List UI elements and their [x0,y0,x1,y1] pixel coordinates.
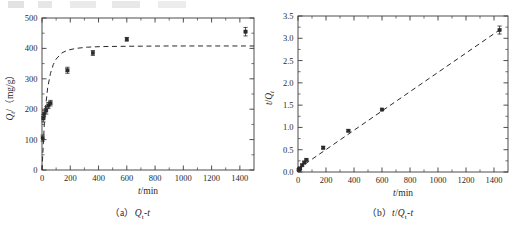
plot-b-canvas: 02004006008001000120014000.00.51.01.52.0… [260,0,520,205]
x-tick-label: 1200 [203,173,220,183]
data-point-marker [66,69,69,72]
y-tick-label: 400 [25,43,38,53]
y-tick-label: 1.5 [283,100,294,110]
y-tick-label: 100 [25,135,38,145]
y-tick-label: 3.0 [283,33,294,43]
y-tick-label: 1.0 [283,122,294,132]
x-tick-label: 0 [296,175,300,185]
fit-curve [42,46,254,170]
x-tick-label: 800 [149,173,162,183]
x-axis-label-var: t [393,188,396,198]
x-tick-label: 0 [40,173,44,183]
data-point-marker [125,38,128,41]
y-tick-label: 0.5 [283,145,294,155]
y-label-units: /（mg/g） [4,70,15,112]
y-tick-label: 2.5 [283,56,294,66]
x-axis-label: t/min [138,186,158,196]
data-point-marker [347,129,350,132]
data-point-marker [322,146,325,149]
y-label-sub-t: t [268,90,276,93]
fit-curve [298,29,501,169]
plot-frame [298,16,508,172]
y-tick-label: 0 [33,165,37,175]
y-tick-label: 300 [25,74,38,84]
x-tick-label: 200 [64,173,77,183]
plot-a-canvas: 0200400600800100012001400010020030040050… [0,0,260,205]
y-tick-label: 200 [25,104,38,114]
x-axis-label: t/min [393,188,413,198]
y-axis-label-b-text: t/Qt [264,90,276,105]
panel-b-caption-prefix: （b） [367,208,392,218]
data-point-marker [305,158,308,161]
data-point-marker [244,30,247,33]
y-tick-label: 500 [25,13,38,23]
x-tick-label: 1000 [430,175,447,185]
x-tick-label: 600 [376,175,389,185]
y-axis-label-a-text: Qt/（mg/g） [4,70,17,121]
x-tick-label: 800 [404,175,417,185]
y-tick-label: 0.0 [283,167,294,177]
data-point-marker [49,101,52,104]
x-tick-label: 1000 [175,173,192,183]
y-axis-label-b: t/Qt [264,90,276,105]
plot-frame [42,18,254,170]
panel-a-caption: （a）Qt-t [0,205,260,221]
figure-adsorption-kinetics: 0200400600800100012001400010020030040050… [0,0,520,235]
x-tick-label: 600 [120,173,133,183]
y-axis-label-a: Qt/（mg/g） [4,70,17,121]
panel-a-caption-prefix: （a） [110,208,135,218]
data-point-marker [91,51,94,54]
panel-b-t-over-qt-vs-t: 02004006008001000120014000.00.51.01.52.0… [260,0,520,235]
x-tick-label: 1200 [458,175,475,185]
x-tick-label: 1400 [231,173,248,183]
y-tick-label: 3.5 [283,11,294,21]
x-tick-label: 1400 [486,175,503,185]
x-tick-label: 200 [320,175,333,185]
panel-a-qt-vs-t: 0200400600800100012001400010020030040050… [0,0,260,235]
x-axis-label-var: t [138,186,141,196]
x-tick-label: 400 [348,175,361,185]
y-tick-label: 2.0 [283,78,294,88]
panel-b-caption: （b）t/Qt-t [260,205,520,221]
x-tick-label: 400 [92,173,105,183]
